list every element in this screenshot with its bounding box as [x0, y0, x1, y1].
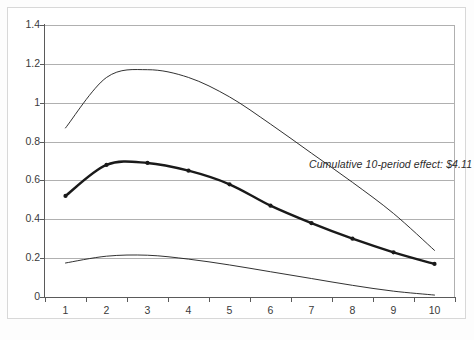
y-axis-tick-label: 0.8	[25, 136, 40, 147]
x-axis-tick-label: 9	[379, 304, 409, 316]
x-axis-tick-mark	[127, 298, 128, 302]
x-axis-tick-label: 5	[215, 304, 245, 316]
x-axis-tick-mark	[168, 298, 169, 302]
data-point-marker	[227, 182, 231, 186]
data-point-marker	[391, 250, 395, 254]
x-axis-tick-mark	[373, 298, 374, 302]
data-point-marker	[309, 221, 313, 225]
y-axis-tick-mark	[40, 258, 44, 259]
data-point-marker	[350, 237, 354, 241]
y-axis-tick-label: 0.6	[25, 174, 40, 185]
y-axis-tick-mark	[40, 180, 44, 181]
x-axis-tick-mark	[250, 298, 251, 302]
y-axis-tick-label: 1.4	[25, 19, 40, 30]
x-axis-tick-mark	[45, 298, 46, 302]
x-axis-tick-mark	[455, 298, 456, 302]
data-point-marker	[63, 194, 67, 198]
cumulative-effect-annotation: Cumulative 10-period effect: $4.11	[309, 158, 472, 170]
x-axis-tick-label: 3	[133, 304, 163, 316]
x-axis-tick-mark	[414, 298, 415, 302]
y-axis-tick-mark	[40, 297, 44, 298]
data-point-marker	[432, 262, 436, 266]
data-point-marker	[145, 161, 149, 165]
x-axis-tick-label: 10	[420, 304, 450, 316]
line-chart: 00.20.40.60.811.21.4 12345678910 Cumulat…	[0, 0, 474, 340]
y-axis-line	[44, 24, 45, 298]
y-axis-tick-mark	[40, 64, 44, 65]
x-axis-tick-mark	[291, 298, 292, 302]
x-axis-tick-mark	[332, 298, 333, 302]
y-axis-tick-label: 0.2	[25, 252, 40, 263]
x-axis-tick-label: 1	[51, 304, 81, 316]
y-axis-tick-mark	[40, 103, 44, 104]
y-axis-tick-mark	[40, 219, 44, 220]
x-axis-tick-label: 8	[338, 304, 368, 316]
series-line-point-estimate	[66, 161, 435, 263]
x-axis-tick-label: 6	[256, 304, 286, 316]
x-axis-tick-label: 4	[174, 304, 204, 316]
y-axis-tick-mark	[40, 142, 44, 143]
series-line-lower-confidence-band	[66, 255, 435, 295]
y-axis-tick-label: 0.4	[25, 213, 40, 224]
data-point-marker	[104, 163, 108, 167]
y-axis-tick-label: 1.2	[25, 58, 40, 69]
y-axis-tick-labels: 00.20.40.60.811.21.4	[0, 0, 40, 340]
y-axis-tick-mark	[40, 25, 44, 26]
chart-screenshot: 00.20.40.60.811.21.4 12345678910 Cumulat…	[0, 0, 474, 340]
x-axis-tick-label: 7	[297, 304, 327, 316]
data-point-marker	[268, 204, 272, 208]
x-axis-tick-mark	[209, 298, 210, 302]
data-point-marker	[186, 169, 190, 173]
x-axis-tick-label: 2	[92, 304, 122, 316]
x-axis-tick-mark	[86, 298, 87, 302]
